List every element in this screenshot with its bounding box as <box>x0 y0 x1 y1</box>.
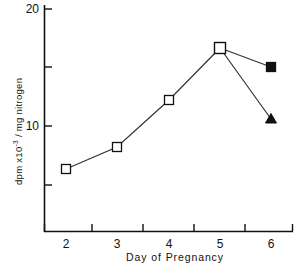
svg-text:dpm x10-3 / mg nitrogen: dpm x10-3 / mg nitrogen <box>12 78 24 185</box>
y-axis-title-tail: / mg nitrogen <box>13 78 24 140</box>
chart-figure: 20 10 2 3 4 5 6 Day of Pregnancy dpm x10… <box>0 0 304 264</box>
series-line-filled-square <box>220 48 271 67</box>
data-point-day6-filled-square <box>267 63 276 72</box>
x-tick-label-6: 6 <box>268 237 275 251</box>
x-tick-label-4: 4 <box>166 237 173 251</box>
y-axis-title-main: dpm x10 <box>13 146 24 185</box>
chart-plot-area: 20 10 2 3 4 5 6 Day of Pregnancy dpm x10… <box>0 0 304 264</box>
y-tick-label-20: 20 <box>26 2 40 16</box>
y-tick-label-10: 10 <box>26 119 40 133</box>
x-tick-label-2: 2 <box>63 237 70 251</box>
y-axis-title: dpm x10-3 / mg nitrogen <box>12 78 24 185</box>
x-axis-title: Day of Pregnancy <box>126 251 224 263</box>
data-point-day2 <box>62 165 71 174</box>
data-point-day4 <box>165 96 174 105</box>
data-point-day5-peak <box>215 43 226 54</box>
data-point-day3 <box>113 143 122 152</box>
x-tick-label-3: 3 <box>114 237 121 251</box>
series-line-filled-triangle <box>220 48 271 119</box>
series-line-open-square <box>66 48 220 169</box>
data-point-day6-filled-triangle <box>266 114 277 124</box>
x-tick-label-5: 5 <box>217 237 224 251</box>
